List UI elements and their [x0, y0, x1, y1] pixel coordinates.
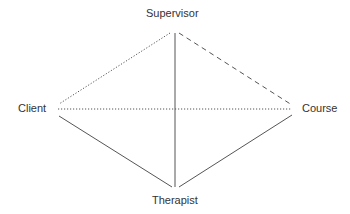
edge-supervisor-client: [59, 33, 170, 104]
relationship-diagram: [0, 0, 350, 214]
edge-course-therapist: [179, 115, 292, 187]
node-client-label: Client: [18, 102, 46, 114]
edge-supervisor-course: [179, 33, 292, 105]
node-supervisor-label: Supervisor: [146, 7, 199, 19]
node-therapist-label: Therapist: [152, 194, 198, 206]
node-course-label: Course: [302, 102, 337, 114]
edge-client-therapist: [59, 116, 172, 187]
